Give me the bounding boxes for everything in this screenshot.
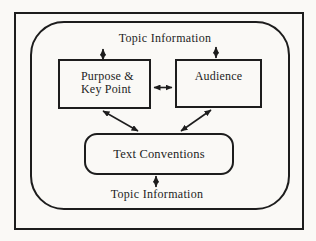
purpose-key-point-box: Purpose & Key Point <box>58 59 151 109</box>
audience-box: Audience <box>175 59 262 108</box>
text-conventions-box: Text Conventions <box>84 133 234 175</box>
text-conventions-label: Text Conventions <box>113 147 205 162</box>
audience-label: Audience <box>195 69 243 83</box>
diagram-canvas: Topic Information Purpose & Key Point Au… <box>0 0 316 241</box>
purpose-key-point-label-line2: Key Point <box>81 83 149 96</box>
topic-information-boundary <box>30 21 290 210</box>
topic-information-top-label: Topic Information <box>119 31 212 46</box>
topic-information-bottom-label: Topic Information <box>111 187 204 202</box>
